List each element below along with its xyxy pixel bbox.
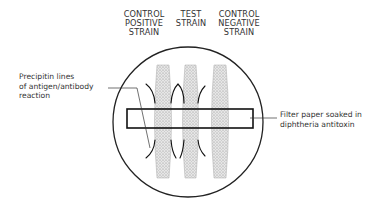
test-strain-streak [183, 65, 199, 178]
elek-plate-diagram [0, 0, 385, 206]
control-positive-streak [155, 65, 172, 178]
control-negative-streak [212, 65, 229, 178]
